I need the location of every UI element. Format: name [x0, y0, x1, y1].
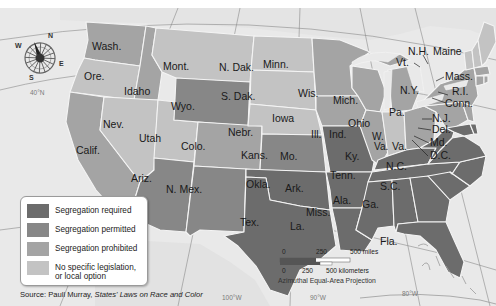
label-del: Del. — [432, 123, 451, 135]
label-tex: Tex. — [240, 216, 259, 228]
label-sc: S.C. — [380, 180, 400, 192]
label-kans: Kans. — [241, 149, 268, 161]
scale-km-250: 250 — [302, 267, 313, 274]
label-maine: Maine — [433, 45, 462, 57]
label-wyo: Wyo. — [171, 100, 195, 112]
label-tenn: Tenn. — [330, 169, 356, 181]
label-va: Va. — [392, 140, 407, 152]
state-mass[interactable] — [474, 66, 490, 76]
label-mont: Mont. — [163, 60, 189, 72]
label-ndak: N. Dak. — [219, 61, 254, 73]
scale-km-0: 0 — [282, 267, 286, 274]
label-colo: Colo. — [181, 140, 206, 152]
state-mont[interactable] — [152, 28, 254, 82]
label-dc: D.C. — [430, 149, 451, 161]
label-nmex: N. Mex. — [166, 183, 202, 195]
label-nh: N.H. — [408, 45, 429, 57]
legend-label-none: No specific legislation, or local option — [55, 263, 136, 281]
lat-40n-label: 40°N — [30, 89, 45, 96]
legend-item-permitted: Segregation permitted — [27, 223, 136, 237]
label-ariz: Ariz. — [131, 172, 152, 184]
source-citation: Source: Paull Murray, States' Laws on Ra… — [20, 290, 203, 299]
label-minn: Minn. — [263, 58, 289, 70]
label-ala: Ala. — [333, 194, 351, 206]
label-nc: N.C. — [386, 160, 407, 172]
label-ohio: Ohio — [348, 117, 370, 129]
state-ri[interactable] — [484, 76, 488, 84]
lon-80w-label: 80°W — [402, 290, 419, 297]
legend-swatch-none — [27, 261, 49, 275]
label-ore: Ore. — [84, 70, 104, 82]
legend-item-none: No specific legislation, or local option — [27, 261, 136, 281]
state-nmex[interactable] — [186, 166, 246, 236]
compass-w: W — [15, 42, 22, 49]
lon-100w-label: 100°W — [222, 294, 242, 301]
label-md: Md. — [430, 136, 448, 148]
label-ny: N.Y. — [400, 84, 419, 96]
legend-label-permitted: Segregation permitted — [55, 225, 136, 234]
label-wash: Wash. — [92, 40, 121, 52]
label-ri: R.I. — [452, 85, 468, 97]
legend: Segregation required Segregation permitt… — [20, 196, 148, 286]
segregation-map: N W E S 40°N 100°W 90°W 80°W Wash. Ore. … — [0, 0, 496, 306]
legend-swatch-prohibited — [27, 242, 49, 256]
state-conn[interactable] — [476, 76, 484, 86]
label-miss: Miss. — [306, 206, 331, 218]
label-utah: Utah — [139, 132, 161, 144]
label-mich: Mich. — [333, 94, 358, 106]
legend-item-prohibited: Segregation prohibited — [27, 242, 137, 256]
label-conn: Conn. — [445, 97, 473, 109]
label-calif: Calif. — [76, 144, 100, 156]
legend-item-required: Segregation required — [27, 204, 131, 218]
label-okla: Okla. — [246, 178, 271, 190]
label-la: La. — [290, 220, 305, 232]
label-ark: Ark. — [285, 182, 304, 194]
label-idaho: Idaho — [124, 85, 150, 97]
legend-label-none-line1: No specific legislation, — [55, 263, 136, 272]
source-title: States' Laws on Race and Color — [95, 290, 203, 299]
legend-label-prohibited: Segregation prohibited — [55, 244, 137, 253]
legend-swatch-permitted — [27, 223, 49, 237]
scale-km-500: 500 kilometers — [326, 267, 369, 274]
label-nebr: Nebr. — [228, 126, 253, 138]
legend-swatch-required — [27, 204, 49, 218]
legend-label-none-line2: or local option — [55, 272, 136, 281]
label-mo: Mo. — [280, 150, 298, 162]
label-iowa: Iowa — [272, 112, 294, 124]
scale-miles-0: 0 — [282, 248, 286, 255]
legend-label-required: Segregation required — [55, 206, 131, 215]
label-sdak: S. Dak. — [221, 90, 255, 102]
label-mass: Mass. — [445, 70, 473, 82]
label-wva-2: Va. — [374, 141, 388, 152]
compass-n: N — [48, 32, 53, 39]
label-ky: Ky. — [345, 150, 359, 162]
label-ind: Ind. — [329, 128, 347, 140]
compass-s: S — [29, 74, 34, 81]
label-pa: Pa. — [389, 106, 405, 118]
compass-e: E — [59, 60, 64, 67]
lon-90w-label: 90°W — [310, 294, 327, 301]
projection-label: Azimuthal Equal-Area Projection — [278, 277, 376, 284]
scale-miles-250: 250 — [316, 248, 327, 255]
label-ga: Ga. — [362, 198, 379, 210]
label-vt: Vt. — [396, 56, 409, 68]
source-prefix: Source: Paull Murray, — [20, 290, 95, 299]
scale-legend: 0 250 500 miles 0 250 500 kilometers — [278, 246, 388, 276]
label-nev: Nev. — [103, 118, 124, 130]
label-wis: Wis. — [298, 87, 318, 99]
label-ill: Ill. — [311, 128, 322, 140]
scale-miles-500: 500 miles — [350, 248, 378, 255]
